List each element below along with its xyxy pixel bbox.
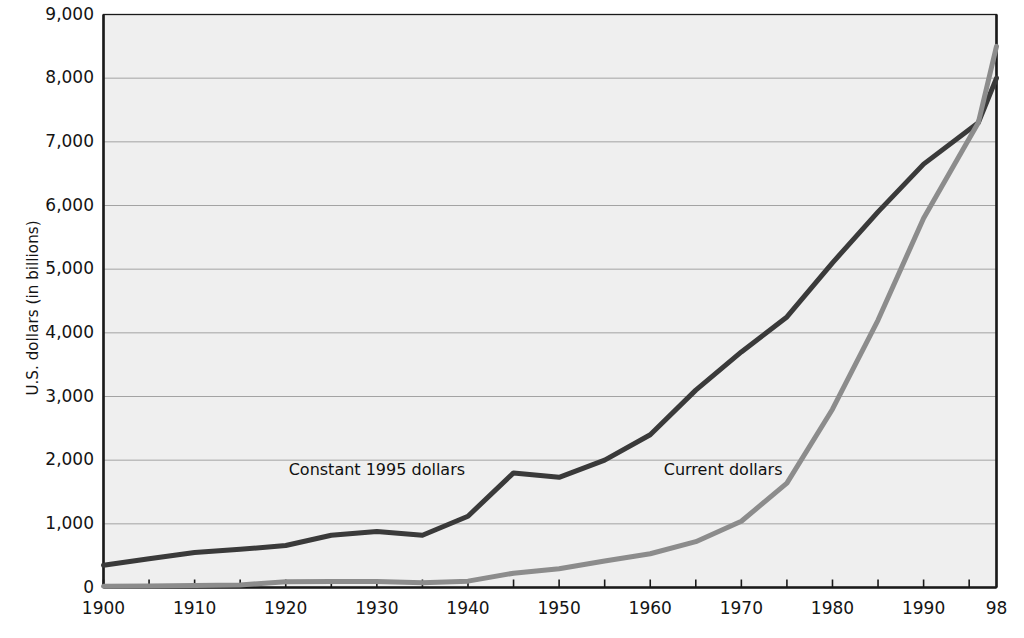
x-tick-label: 1980 (811, 600, 854, 617)
x-tick-label: 1940 (446, 600, 489, 617)
series-label-constant-1995-dollars: Constant 1995 dollars (289, 462, 465, 478)
x-tick-label: 1930 (355, 600, 398, 617)
x-tick-label: 1970 (720, 600, 763, 617)
x-axis-tick-labels: 1900191019201930194019501960197019801990… (0, 0, 1024, 638)
series-label-current-dollars: Current dollars (664, 462, 783, 478)
x-tick-label: 1910 (173, 600, 216, 617)
x-tick-label: 1920 (264, 600, 307, 617)
x-tick-label: 1950 (537, 600, 580, 617)
x-tick-label: 1960 (629, 600, 672, 617)
chart-figure: U.S. dollars (in billions) 9,0008,0007,0… (0, 0, 1024, 638)
x-tick-label: 1990 (902, 600, 945, 617)
x-tick-label: 1900 (82, 600, 125, 617)
x-tick-label: 98 (986, 600, 1008, 617)
